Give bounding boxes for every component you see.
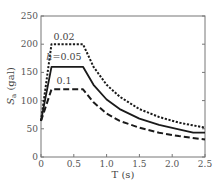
y-tick-label: 50: [27, 124, 39, 134]
series-h-0-1: [41, 89, 205, 139]
x-tick-label: 2.0: [165, 159, 180, 169]
svg-text:Sa (gal): Sa (gal): [5, 67, 18, 105]
curve-annotation: h=0.05: [46, 51, 81, 62]
y-tick-label: 250: [21, 11, 38, 21]
y-tick-label: 150: [21, 67, 38, 77]
y-axis-unit: (gal): [5, 67, 16, 94]
curve-annotation: 0.02: [53, 31, 74, 42]
curve-annotations: 0.02h=0.050.1: [46, 31, 81, 85]
curve-annotation: 0.1: [56, 75, 71, 86]
y-axis-label: Sa (gal): [5, 67, 18, 105]
x-tick-label: 0.5: [67, 159, 82, 169]
x-tick-label: 1.5: [132, 159, 147, 169]
response-spectrum-chart: 00.51.01.52.02.5050100150200250 0.02h=0.…: [0, 0, 218, 189]
x-axis-label: T (s): [112, 169, 135, 180]
y-tick-label: 200: [21, 39, 38, 49]
y-tick-label: 100: [21, 96, 38, 106]
x-tick-label: 1.0: [99, 159, 114, 169]
x-tick-label: 0: [38, 159, 44, 169]
y-tick-label: 0: [32, 152, 38, 162]
x-tick-label: 2.5: [198, 159, 213, 169]
axis-ticks: 00.51.01.52.02.5050100150200250: [21, 11, 213, 169]
